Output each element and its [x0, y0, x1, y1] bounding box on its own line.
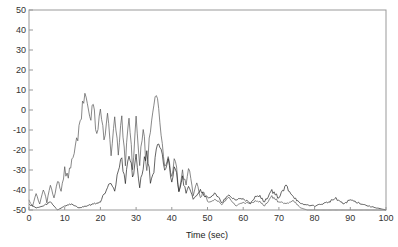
x-tick-label: 30 [131, 213, 141, 223]
y-tick-label: 30 [16, 45, 26, 55]
y-tick-label: 0 [21, 105, 26, 115]
y-tick-label: 50 [16, 5, 26, 15]
y-tick-label: 10 [16, 85, 26, 95]
y-tick-label: 40 [16, 25, 26, 35]
x-tick-label: 90 [345, 213, 355, 223]
y-axis: 50403020100-10-20-30-40-50 [13, 5, 33, 215]
y-tick-label: 20 [16, 65, 26, 75]
y-tick-label: -50 [13, 205, 26, 215]
y-tick-label: -30 [13, 165, 26, 175]
plot-area [29, 10, 386, 210]
series-line-signal-1 [29, 93, 386, 210]
x-axis: 0102030405060708090100 [26, 207, 393, 223]
x-axis-title: Time (sec) [186, 230, 228, 240]
x-tick-label: 80 [310, 213, 320, 223]
x-tick-label: 40 [167, 213, 177, 223]
y-tick-label: -10 [13, 125, 26, 135]
x-tick-label: 10 [60, 213, 70, 223]
y-tick-label: -40 [13, 185, 26, 195]
x-tick-label: 100 [378, 213, 393, 223]
line-chart: 50403020100-10-20-30-40-50 0102030405060… [0, 0, 398, 247]
x-tick-label: 60 [238, 213, 248, 223]
y-tick-label: -20 [13, 145, 26, 155]
x-tick-label: 0 [26, 213, 31, 223]
x-tick-label: 50 [202, 213, 212, 223]
x-tick-label: 70 [274, 213, 284, 223]
x-tick-label: 20 [95, 213, 105, 223]
series-layer [29, 93, 386, 210]
